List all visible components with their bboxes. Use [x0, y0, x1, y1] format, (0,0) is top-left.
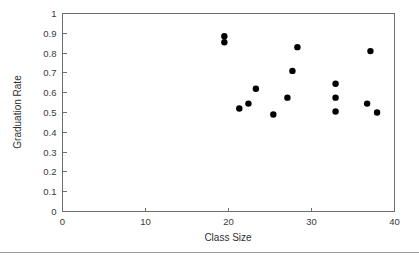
x-axis-title: Class Size [204, 232, 252, 243]
data-point [294, 44, 300, 50]
y-tick-label: 0.9 [43, 28, 56, 39]
y-tick-label: 0.7 [43, 67, 56, 78]
data-point [284, 94, 290, 100]
data-point [221, 39, 227, 45]
chart-canvas: 00.10.20.30.40.50.60.70.80.91 010203040 … [0, 0, 419, 259]
y-tick-label: 0.4 [43, 127, 56, 138]
y-tick-label: 0.3 [43, 147, 56, 158]
y-tick-label: 0.2 [43, 166, 56, 177]
data-point [245, 100, 251, 106]
data-point [221, 33, 227, 39]
x-tick-label: 0 [60, 216, 65, 227]
y-tick-label: 0.6 [43, 87, 56, 98]
y-tick-label: 0 [51, 206, 56, 217]
y-tick-label: 0.5 [43, 107, 56, 118]
data-point [253, 86, 259, 92]
y-tick-label: 0.8 [43, 48, 56, 59]
data-point [367, 48, 373, 54]
data-point [374, 109, 380, 115]
y-tick-label: 0.1 [43, 186, 56, 197]
y-axis-title: Graduation Rate [12, 75, 23, 149]
data-point [270, 111, 276, 117]
data-point [332, 108, 338, 114]
data-point [236, 105, 242, 111]
y-tick-label: 1 [51, 8, 56, 19]
scatter-plot-figure: 00.10.20.30.40.50.60.70.80.91 010203040 … [0, 0, 419, 259]
data-point [332, 81, 338, 87]
x-tick-label: 30 [306, 216, 317, 227]
data-point [289, 68, 295, 74]
x-tick-label: 10 [140, 216, 151, 227]
x-tick-label: 40 [389, 216, 400, 227]
data-point [364, 100, 370, 106]
x-tick-label: 20 [223, 216, 234, 227]
data-point [332, 94, 338, 100]
